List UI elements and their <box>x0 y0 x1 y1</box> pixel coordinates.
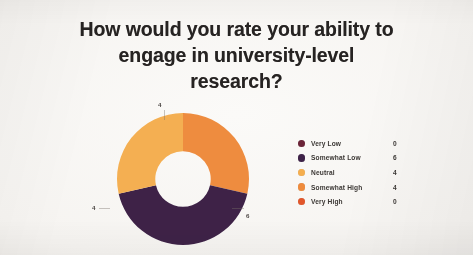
legend-value-somewhat-low: 6 <box>393 154 397 161</box>
data-label-left: 4 <box>92 204 96 211</box>
leader-line-left <box>99 208 110 209</box>
chart-legend: Very Low 0 Somewhat Low 6 Neutral 4 Some… <box>298 136 438 209</box>
legend-swatch-very-low <box>298 140 305 147</box>
legend-value-neutral: 4 <box>393 169 397 176</box>
page-title-line-1: How would you rate your ability to <box>44 17 429 43</box>
legend-label-somewhat-low: Somewhat Low <box>311 154 361 161</box>
donut-slice-somewhat-low[interactable] <box>119 185 248 245</box>
legend-item-somewhat-low[interactable]: Somewhat Low 6 <box>298 151 438 166</box>
page-title-line-2: engage in university-level <box>44 43 429 69</box>
legend-label-very-low: Very Low <box>311 140 341 147</box>
legend-swatch-neutral <box>298 169 305 176</box>
donut-graphic <box>116 112 250 246</box>
legend-label-very-high: Very High <box>311 198 343 205</box>
leader-line-top <box>164 110 165 120</box>
data-label-bottom-right: 6 <box>246 212 250 219</box>
donut-chart: 4 4 6 <box>0 96 292 255</box>
slide-canvas: How would you rate your ability to engag… <box>0 0 473 255</box>
leader-line-bottom-right <box>232 208 244 209</box>
donut-slices <box>117 113 249 245</box>
legend-item-neutral[interactable]: Neutral 4 <box>298 165 438 180</box>
legend-value-very-low: 0 <box>393 140 397 147</box>
page-title: How would you rate your ability to engag… <box>44 17 429 95</box>
legend-label-neutral: Neutral <box>311 169 335 176</box>
donut-slice-neutral[interactable] <box>117 113 183 194</box>
page-title-line-3: research? <box>44 69 429 95</box>
legend-swatch-somewhat-high <box>298 183 305 190</box>
legend-item-very-low[interactable]: Very Low 0 <box>298 136 438 151</box>
donut-slice-somewhat-high[interactable] <box>183 113 249 194</box>
legend-swatch-very-high <box>298 198 305 205</box>
legend-item-very-high[interactable]: Very High 0 <box>298 194 438 209</box>
legend-swatch-somewhat-low <box>298 154 305 161</box>
legend-value-very-high: 0 <box>393 198 397 205</box>
data-label-top: 4 <box>158 101 162 108</box>
legend-label-somewhat-high: Somewhat High <box>311 184 362 191</box>
donut-svg <box>116 112 250 246</box>
legend-value-somewhat-high: 4 <box>393 184 397 191</box>
legend-item-somewhat-high[interactable]: Somewhat High 4 <box>298 180 438 195</box>
